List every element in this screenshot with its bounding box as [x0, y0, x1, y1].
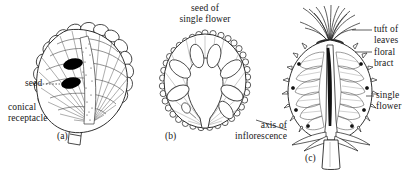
label-axis-of-inflorescence-line1: axis of [232, 120, 287, 131]
panel-a-drawing [33, 21, 135, 145]
caption-c: (c) [305, 153, 316, 163]
panel-c-tuft-of-leaves [300, 5, 360, 44]
caption-a: (a) [57, 131, 68, 141]
label-seed: seed [25, 78, 42, 89]
label-single-flower-line2: flower [376, 101, 401, 112]
figure-artwork [0, 0, 409, 171]
label-conical-receptacle-line2: receptacle [8, 113, 48, 124]
label-tuft-of-leaves-line1: tuft of [374, 24, 398, 35]
label-floral-bract-line2: bract [374, 58, 394, 69]
botanical-figure: seed conical receptacle (a) seed of sing… [0, 0, 409, 171]
label-seed-of-single-flower-line1: seed of [165, 3, 245, 14]
caption-b: (b) [165, 131, 176, 141]
panel-c-stalk [322, 140, 340, 170]
label-tuft-of-leaves-line2: leaves [374, 35, 398, 46]
panel-b-drawing [159, 30, 287, 131]
panel-c-drawing [282, 5, 378, 170]
label-axis-of-inflorescence-line2: inflorescence [222, 131, 287, 142]
label-floral-bract-line1: floral [374, 47, 395, 58]
label-single-flower-line1: single [376, 90, 399, 101]
label-seed-of-single-flower-line2: single flower [165, 14, 245, 25]
label-conical-receptacle-line1: conical [8, 102, 36, 113]
